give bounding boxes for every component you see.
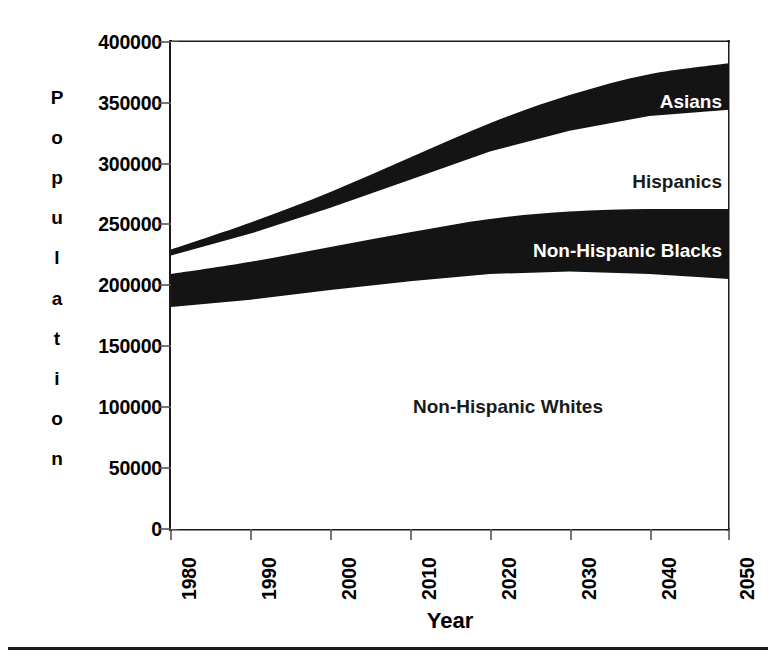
x-tick-label: 1990 (258, 557, 281, 600)
x-tick-label: 2040 (658, 557, 681, 600)
x-tick-label: 1980 (178, 557, 201, 600)
x-tick-label: 2000 (338, 557, 361, 600)
x-axis-tick-labels: 1980 1990 2000 2010 2020 2030 2040 2050 (0, 0, 776, 665)
x-tick-label: 2010 (418, 557, 441, 600)
x-axis-title: Year (170, 608, 730, 634)
x-tick-label: 2020 (498, 557, 521, 600)
footer-divider (8, 647, 768, 650)
population-projection-chart: P o p u l a t i o n 400000 350000 300000… (0, 0, 776, 665)
x-tick-label: 2030 (578, 557, 601, 600)
x-tick-label: 2050 (736, 557, 759, 600)
